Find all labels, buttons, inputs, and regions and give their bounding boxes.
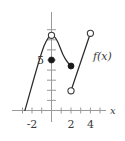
open-dot-vertex <box>48 32 54 38</box>
parabola-branch <box>25 35 71 110</box>
plot-canvas: -2 2 4 5 x f(x) <box>0 0 125 141</box>
x-tick-label-4: 4 <box>87 118 94 131</box>
x-tick-label-2: 2 <box>68 118 75 131</box>
open-dot-line-start <box>68 88 74 94</box>
function-label: f(x) <box>92 50 112 63</box>
closed-dot-y-value <box>49 57 55 63</box>
y-value-label: 5 <box>37 54 44 67</box>
closed-dot-parabola-endpoint <box>68 63 74 69</box>
x-axis-label: x <box>110 105 116 116</box>
x-tick-label--2: -2 <box>27 118 38 131</box>
linear-branch <box>71 33 90 91</box>
function-graph-figure: -2 2 4 5 x f(x) <box>0 0 125 141</box>
open-dot-line-end <box>87 30 93 36</box>
